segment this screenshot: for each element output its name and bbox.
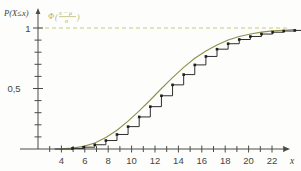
step-marker (171, 84, 174, 87)
y-axis-arrowhead (36, 8, 41, 14)
x-axis-tick-labels: 4 6 8 10 12 14 16 18 20 22 24 (59, 155, 278, 166)
step-marker (205, 55, 208, 58)
step-marker (127, 125, 130, 128)
cdf-plot-svg: P(X≤x) Φ ( x − μ σ ) (0, 0, 301, 171)
chart-figure: P(X≤x) Φ ( x − μ σ ) (0, 0, 301, 171)
x-tick-label-9: 22 (267, 155, 278, 166)
step-marker (193, 64, 196, 67)
y-tick-label-0-5: 0,5 (7, 83, 20, 94)
x-tick-label-6: 16 (197, 155, 208, 166)
normal-approximation-curve (61, 30, 294, 149)
step-marker (105, 139, 108, 142)
step-marker (116, 133, 119, 136)
step-marker (271, 31, 274, 34)
step-marker (138, 116, 141, 119)
step-markers-group (71, 29, 296, 150)
step-marker (260, 33, 263, 36)
x-tick-label-7: 18 (220, 155, 231, 166)
annotation-numerator: x − μ (58, 9, 72, 16)
x-tick-label-3: 10 (126, 155, 137, 166)
step-marker (182, 73, 185, 76)
x-tick-label-2: 8 (106, 155, 111, 166)
normal-approximation-annotation: Φ ( x − μ σ ) (48, 9, 80, 24)
x-axis-arrowhead (284, 147, 290, 152)
step-marker (82, 146, 85, 149)
phi-symbol: Φ (48, 12, 54, 21)
step-marker (282, 30, 285, 33)
step-marker (149, 105, 152, 108)
x-tick-label-5: 14 (173, 155, 184, 166)
y-tick-label-1: 1 (25, 23, 30, 34)
step-marker (71, 147, 74, 150)
step-marker (93, 143, 96, 146)
step-marker (160, 94, 163, 97)
x-axis-label: x (289, 156, 295, 166)
annotation-close-paren: ) (76, 13, 80, 22)
step-marker (227, 42, 230, 45)
x-tick-label-1: 6 (82, 155, 87, 166)
annotation-denominator: σ (65, 17, 69, 24)
step-marker (294, 29, 297, 32)
step-marker (216, 48, 219, 51)
y-axis-label: P(X≤x) (3, 8, 29, 18)
x-tick-label-0: 4 (59, 155, 64, 166)
step-marker (249, 35, 252, 38)
x-tick-label-4: 12 (150, 155, 161, 166)
x-tick-label-8: 20 (243, 155, 254, 166)
step-marker (238, 38, 241, 41)
empirical-cdf-step-curve (55, 30, 301, 149)
